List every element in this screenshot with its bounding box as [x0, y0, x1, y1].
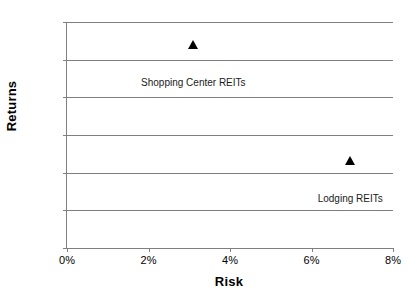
data-point-label: Lodging REITs [318, 193, 383, 205]
gridline-horizontal [67, 173, 393, 174]
y-axis-tick [63, 173, 67, 174]
x-axis-tick-label: 0% [37, 255, 97, 266]
x-axis-tick-label: 2% [119, 255, 179, 266]
x-axis-tick-label: 8% [363, 255, 417, 266]
chart-container: Returns Risk 0.0%0.2%0.4%0.6%0.8%1.0%1.2… [0, 0, 417, 303]
data-point-marker[interactable] [345, 156, 355, 165]
gridline-horizontal [67, 60, 393, 61]
gridline-horizontal [67, 97, 393, 98]
gridline-horizontal [67, 22, 393, 23]
x-axis-tick [230, 248, 231, 252]
y-axis-tick [63, 60, 67, 61]
y-axis-tick [63, 135, 67, 136]
x-axis-tick [149, 248, 150, 252]
x-axis-tick-label: 4% [200, 255, 260, 266]
gridline-horizontal [67, 210, 393, 211]
y-axis-tick [63, 22, 67, 23]
y-axis-tick [63, 97, 67, 98]
x-axis-title: Risk [66, 274, 392, 289]
y-axis-tick [63, 210, 67, 211]
y-axis-title: Returns [2, 56, 22, 156]
data-point-marker[interactable] [188, 40, 198, 49]
data-point-label: Shopping Center REITs [141, 77, 246, 89]
x-axis-tick [67, 248, 68, 252]
x-axis-tick [312, 248, 313, 252]
x-axis-tick [393, 248, 394, 252]
plot-area: 0.0%0.2%0.4%0.6%0.8%1.0%1.2%0%2%4%6%8%Sh… [66, 22, 393, 249]
x-axis-tick-label: 6% [282, 255, 342, 266]
gridline-horizontal [67, 135, 393, 136]
